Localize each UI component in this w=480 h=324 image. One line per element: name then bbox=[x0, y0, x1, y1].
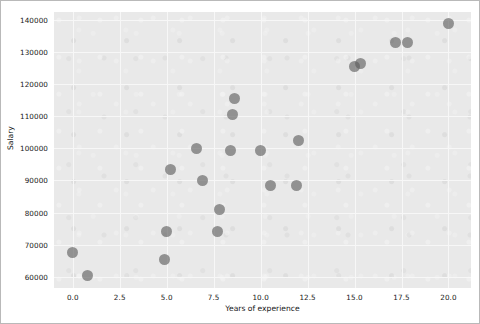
x-tick-label: 12.5 bbox=[299, 293, 315, 302]
y-tick-label: 80000 bbox=[25, 208, 48, 217]
x-tick-label: 7.5 bbox=[208, 293, 220, 302]
y-tick-label: 70000 bbox=[25, 240, 48, 249]
x-tick-label: 17.5 bbox=[393, 293, 409, 302]
y-tick-label: 100000 bbox=[20, 144, 48, 153]
x-tick-label: 2.5 bbox=[114, 293, 126, 302]
y-tick-label: 60000 bbox=[25, 272, 48, 281]
y-tick-label: 130000 bbox=[20, 48, 48, 57]
x-tick-label: 20.0 bbox=[440, 293, 456, 302]
axis-labels-layer: 6000070000800009000010000011000012000013… bbox=[1, 1, 480, 324]
scatter-plot-figure: 6000070000800009000010000011000012000013… bbox=[0, 0, 480, 324]
y-tick-label: 110000 bbox=[20, 112, 48, 121]
x-tick-label: 5.0 bbox=[161, 293, 173, 302]
x-tick-label: 0.0 bbox=[67, 293, 79, 302]
y-axis-label: Salary bbox=[6, 126, 15, 150]
x-tick-label: 15.0 bbox=[346, 293, 362, 302]
y-tick-label: 120000 bbox=[20, 80, 48, 89]
x-tick-label: 10.0 bbox=[252, 293, 268, 302]
x-axis-label: Years of experience bbox=[54, 304, 471, 313]
y-tick-label: 90000 bbox=[25, 176, 48, 185]
y-tick-label: 140000 bbox=[20, 16, 48, 25]
